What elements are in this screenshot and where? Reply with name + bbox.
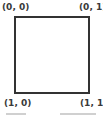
square-outline bbox=[14, 16, 90, 94]
cut-off-text-fragment bbox=[6, 113, 26, 115]
corner-label-bottom-left: (1, 0) bbox=[4, 98, 31, 108]
corner-label-top-right: (0, 1) bbox=[79, 2, 103, 12]
corner-label-top-left: (0, 0) bbox=[2, 2, 29, 12]
cut-off-text-fragment bbox=[60, 113, 96, 115]
corner-label-bottom-right: (1, 1) bbox=[80, 98, 103, 108]
